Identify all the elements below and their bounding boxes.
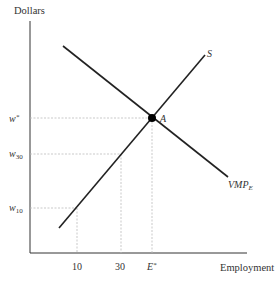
vmp-label-main: VMP xyxy=(228,179,249,190)
point-a-label: A xyxy=(159,113,167,124)
y-axis-label: Dollars xyxy=(14,5,45,16)
w30-sub: 30 xyxy=(16,153,24,161)
vmp-label-sub: E xyxy=(248,184,254,192)
labor-market-chart: Dollars Employment S VMPE A w* w30 w10 1… xyxy=(0,0,278,281)
vmp-label: VMPE xyxy=(228,179,254,192)
x-tick-e-main: E xyxy=(146,261,153,272)
w30-label: w30 xyxy=(9,148,23,161)
w-star-sup: * xyxy=(16,113,20,121)
x-tick-e-star: E* xyxy=(146,261,157,272)
equilibrium-point-a xyxy=(148,114,156,122)
w10-label: w10 xyxy=(9,202,23,215)
x-tick-10: 10 xyxy=(72,261,82,272)
vmp-demand-curve xyxy=(63,46,228,177)
x-tick-e-sup: * xyxy=(153,261,157,269)
w10-sub: 10 xyxy=(16,207,24,215)
x-axis-label: Employment xyxy=(220,262,274,273)
w-star-label: w* xyxy=(9,113,20,124)
x-tick-30: 30 xyxy=(115,261,125,272)
supply-label: S xyxy=(207,48,212,59)
